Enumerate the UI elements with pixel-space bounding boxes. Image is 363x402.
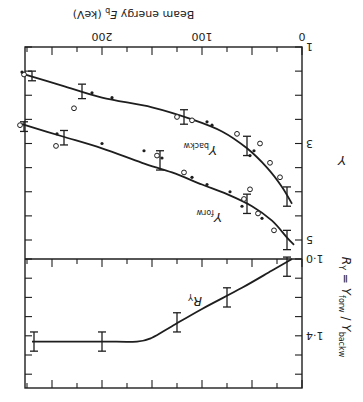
ry-curve <box>32 259 292 342</box>
r-axis-title: RY = Yforw / Ybackw <box>337 257 353 358</box>
open-data-point <box>54 144 59 149</box>
filled-data-point <box>240 205 243 208</box>
filled-data-point <box>190 176 193 179</box>
open-data-point <box>72 106 77 111</box>
x-axis-title: Beam energy Eb (keV) <box>73 6 194 21</box>
open-data-point <box>248 187 253 192</box>
open-data-point <box>235 131 240 136</box>
x-tick-label-100: 100 <box>192 30 213 43</box>
rotated-plot-group: 0100200Beam energy Eb (keV)1351·01·4YRY … <box>18 6 353 388</box>
frame-border <box>25 47 302 388</box>
open-data-point <box>258 141 263 146</box>
open-data-point <box>242 197 247 202</box>
filled-data-point <box>110 96 113 99</box>
label-y-forw: Yforw <box>196 208 222 225</box>
x-tick-label-0: 0 <box>299 30 306 43</box>
filled-data-point <box>205 120 208 123</box>
y-forw-curve <box>22 124 294 245</box>
filled-data-point <box>210 124 213 127</box>
filled-data-point <box>160 156 163 159</box>
open-data-point <box>182 170 187 175</box>
label-y-backw: Ybackw <box>183 141 217 158</box>
plot-frame <box>25 47 302 388</box>
open-data-point <box>278 175 283 180</box>
r-tick-label-1-0: 1·0 <box>306 252 324 265</box>
filled-data-point <box>248 154 251 157</box>
filled-data-point <box>205 183 208 186</box>
filled-data-point <box>142 149 145 152</box>
axis-labels: 0100200Beam energy Eb (keV)1351·01·4YRY … <box>73 6 353 358</box>
y-tick-label-3: 3 <box>306 137 313 150</box>
filled-data-point <box>228 190 231 193</box>
filled-data-point <box>260 217 263 220</box>
open-data-point <box>272 228 277 233</box>
filled-data-point <box>252 149 255 152</box>
data-series <box>18 70 294 351</box>
y-axis-title: Y <box>337 153 346 168</box>
open-data-point <box>190 118 195 123</box>
open-data-point <box>256 211 261 216</box>
open-data-point <box>18 123 23 128</box>
label-r-y: RY <box>188 292 202 309</box>
open-data-point <box>155 153 160 158</box>
filled-data-point <box>100 142 103 145</box>
x-tick-label-200: 200 <box>92 30 113 43</box>
y-tick-label-5: 5 <box>306 233 313 246</box>
chart-svg: 0100200Beam energy Eb (keV)1351·01·4YRY … <box>0 0 363 402</box>
filled-data-point <box>20 70 23 73</box>
y-tick-label-1: 1 <box>306 40 313 53</box>
filled-data-point <box>55 132 58 135</box>
open-data-point <box>268 160 273 165</box>
y-backw-curve <box>22 74 292 204</box>
figure-rotated-180: 0100200Beam energy Eb (keV)1351·01·4YRY … <box>0 0 363 402</box>
open-data-point <box>175 115 180 120</box>
r-tick-label-1-4: 1·4 <box>306 329 324 342</box>
filled-data-point <box>90 91 93 94</box>
axis-ticks <box>25 47 302 388</box>
